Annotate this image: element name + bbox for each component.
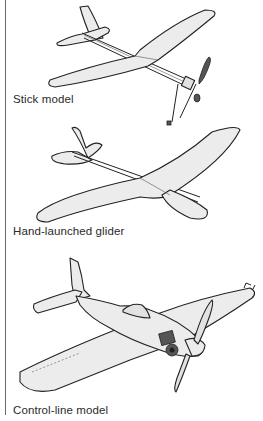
control-line-model-caption: Control-line model bbox=[13, 404, 108, 416]
control-line-model-plane-illustration bbox=[0, 0, 263, 421]
